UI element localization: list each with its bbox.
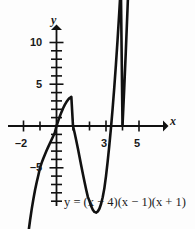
graph-figure: 10 5 –5 –2 3 5 y x y = (x − 4)(x − 1)(x … bbox=[0, 0, 195, 229]
y-tick-label-minus5: –5 bbox=[30, 162, 42, 173]
equation-label: y = (x − 4)(x − 1)(x + 1) bbox=[64, 196, 186, 209]
y-axis-label: y bbox=[51, 14, 56, 26]
x-tick-label-minus2: –2 bbox=[15, 138, 27, 149]
x-axis-arrow-icon bbox=[163, 121, 169, 132]
y-tick-label-5: 5 bbox=[36, 79, 42, 90]
x-tick-label-5: 5 bbox=[134, 138, 140, 149]
x-tick-label-3: 3 bbox=[101, 138, 107, 149]
x-axis-label: x bbox=[170, 115, 176, 127]
y-tick-label-10: 10 bbox=[30, 37, 42, 48]
